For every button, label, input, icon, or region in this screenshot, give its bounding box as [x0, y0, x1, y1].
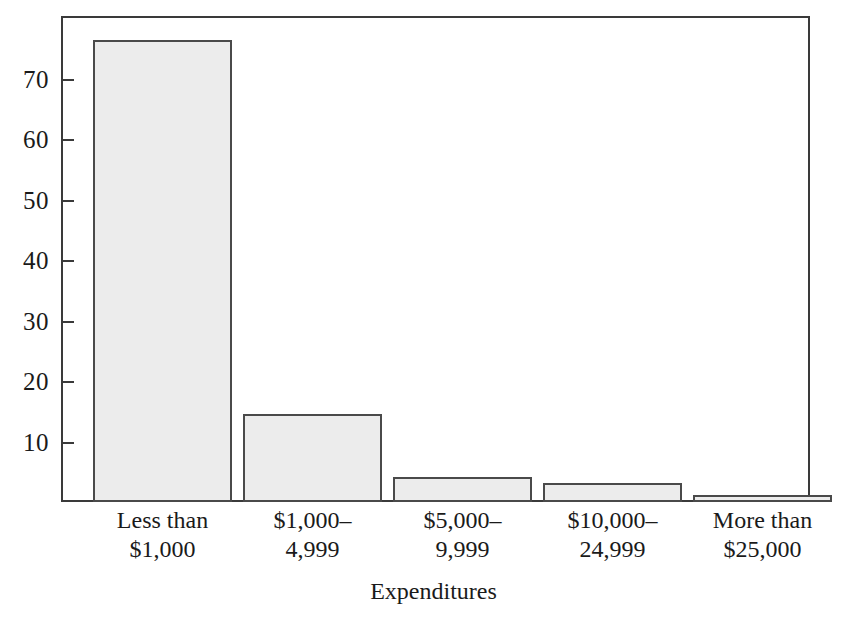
bar-1000-4999[interactable]	[243, 414, 382, 502]
y-tick-label: 20	[23, 369, 49, 394]
x-axis-labels: Less than $1,000 $1,000– 4,999 $5,000– 9…	[61, 506, 810, 576]
x-label-line1: $10,000–	[568, 507, 658, 533]
y-tick-label: 50	[23, 188, 49, 213]
y-tick-label: 10	[23, 430, 49, 455]
bars-area	[61, 16, 810, 502]
y-tick-label: 60	[23, 127, 49, 152]
x-label-line1: $5,000–	[424, 507, 502, 533]
x-label-line2: $25,000	[673, 535, 852, 564]
x-label-line1: More than	[713, 507, 812, 533]
bar-less-than-1000[interactable]	[93, 40, 232, 502]
bar-more-than-25000[interactable]	[693, 495, 832, 502]
bar-5000-9999[interactable]	[393, 477, 532, 502]
y-tick-label: 70	[23, 67, 49, 92]
bar-chart: 70 60 50 40 30 20 10	[0, 0, 867, 623]
bar-10000-24999[interactable]	[543, 483, 682, 502]
x-label-line1: $1,000–	[274, 507, 352, 533]
y-tick-label: 40	[23, 248, 49, 273]
y-tick-label: 30	[23, 309, 49, 334]
x-label-line1: Less than	[117, 507, 208, 533]
x-axis-title: Expenditures	[0, 579, 867, 603]
x-label-more-than-25000: More than $25,000	[673, 506, 852, 565]
